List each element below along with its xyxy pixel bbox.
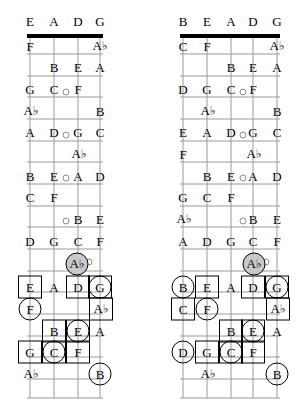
fret-note-label: A♭ <box>246 257 261 271</box>
fret-note-label: A♭ <box>93 302 108 316</box>
fret-note-label: E <box>249 325 257 338</box>
fret-note-label: F <box>179 148 186 161</box>
fret-note-label: B <box>179 281 188 294</box>
fret-note-label: C <box>96 126 105 139</box>
fret-note-label: B <box>96 368 105 381</box>
fret-note-label: A♭ <box>246 147 261 161</box>
fret-note-label: B <box>273 105 282 118</box>
fret-note-label: A <box>272 61 281 74</box>
fret-note-label: F <box>96 235 103 248</box>
inlay-dot-icon <box>240 175 247 182</box>
fret-note-label: D <box>95 170 104 183</box>
fret-note-label: F <box>74 83 81 96</box>
fret-note-label: A♭ <box>23 367 38 381</box>
fret-note-label: C <box>273 126 282 139</box>
open-string-label: A <box>226 15 235 28</box>
fret-note-label: G <box>73 126 82 139</box>
fret-note-label: D <box>226 126 235 139</box>
inlay-dot-icon <box>63 218 70 225</box>
fret-note-label: A <box>178 235 187 248</box>
fret-note-label: E <box>74 325 82 338</box>
fret-note-label: F <box>50 191 57 204</box>
fret-note-label: D <box>73 281 82 294</box>
inlay-dot-icon <box>63 89 70 96</box>
fret-note-label: C <box>203 191 212 204</box>
fret-note-label: C <box>26 191 35 204</box>
fret-note-label: B <box>227 61 236 74</box>
fret-note-label: D <box>49 126 58 139</box>
fret-note-label: F <box>203 40 210 53</box>
open-string-label: E <box>26 15 34 28</box>
open-string-label: E <box>203 15 211 28</box>
inlay-dot-icon <box>240 218 247 225</box>
fret-note-label: E <box>74 61 82 74</box>
fret-note-label: G <box>95 281 104 294</box>
fret-note-label: G <box>202 346 211 359</box>
fret-note-label: C <box>74 235 83 248</box>
fret-note-label: E <box>227 170 235 183</box>
fret-note-label: G <box>248 126 257 139</box>
fret-note-label: F <box>203 303 210 316</box>
fret-note-label: A <box>95 325 104 338</box>
fret-note-label: F <box>249 83 256 96</box>
fret-note-label: F <box>74 346 81 359</box>
open-string-label: D <box>73 15 82 28</box>
fret-note-label: A♭ <box>71 147 86 161</box>
fret-note-label: G <box>25 346 34 359</box>
fret-note-label: B <box>273 368 282 381</box>
fret-note-label: F <box>26 40 33 53</box>
fret-note-label: D <box>178 346 187 359</box>
fret-note-label: A <box>95 61 104 74</box>
fret-note-label: E <box>50 170 58 183</box>
fret-note-label: A♭ <box>270 302 285 316</box>
fret-note-label: G <box>226 235 235 248</box>
open-string-label: G <box>272 15 281 28</box>
inlay-dot-icon <box>63 175 70 182</box>
fret-note-label: G <box>25 83 34 96</box>
fret-note-label: E <box>249 61 257 74</box>
fret-note-label: A <box>202 126 211 139</box>
fret-note-label: F <box>26 303 33 316</box>
fret-note-label: G <box>272 281 281 294</box>
fret-note-label: A♭ <box>176 212 191 226</box>
open-string-label: B <box>179 15 188 28</box>
fret-note-label: B <box>74 213 83 226</box>
fret-note-label: D <box>25 235 34 248</box>
fret-note-label: C <box>249 235 258 248</box>
fret-note-label: B <box>249 213 258 226</box>
fret-note-label: D <box>272 170 281 183</box>
fret-note-label: C <box>179 303 188 316</box>
inlay-dot-icon <box>240 89 247 96</box>
fret-note-label: B <box>227 325 236 338</box>
fretboard-diagram-pair: EADGFA♭BEAGCFA♭BADGCA♭BEADCFBEDGCFA♭EADG… <box>0 0 306 403</box>
fret-note-label: C <box>179 40 188 53</box>
fret-note-label: A♭ <box>23 104 38 118</box>
fret-note-label: A <box>49 281 58 294</box>
fret-note-label: A♭ <box>200 367 215 381</box>
fret-note-label: A <box>248 170 257 183</box>
fret-note-label: A <box>25 126 34 139</box>
fret-note-label: A♭ <box>200 104 215 118</box>
open-string-label: G <box>95 15 104 28</box>
open-string-label: D <box>248 15 257 28</box>
fret-note-label: A♭ <box>92 39 107 53</box>
fret-note-label: E <box>26 281 34 294</box>
fret-note-label: F <box>249 346 256 359</box>
fret-note-label: F <box>227 191 234 204</box>
inlay-dot-icon <box>240 132 247 139</box>
four-string-fretboard: EADGFA♭BEAGCFA♭BADGCA♭BEADCFBEDGCFA♭EADG… <box>0 0 153 403</box>
open-string-label: A <box>49 15 58 28</box>
fret-note-label: A <box>73 170 82 183</box>
fret-note-label: G <box>178 191 187 204</box>
fret-note-label: C <box>227 346 236 359</box>
fret-note-label: E <box>179 126 187 139</box>
fret-note-label: G <box>49 235 58 248</box>
fret-note-label: G <box>202 83 211 96</box>
fret-note-label: A <box>226 281 235 294</box>
fret-note-label: E <box>203 281 211 294</box>
fret-note-label: B <box>50 61 59 74</box>
fret-note-label: F <box>273 235 280 248</box>
five-string-fretboard: BEADGCFA♭BEADGCFA♭BEADGCFA♭BEADGCFA♭BEAD… <box>153 0 306 403</box>
fret-note-label: A♭ <box>269 39 284 53</box>
fret-note-label: A <box>272 325 281 338</box>
